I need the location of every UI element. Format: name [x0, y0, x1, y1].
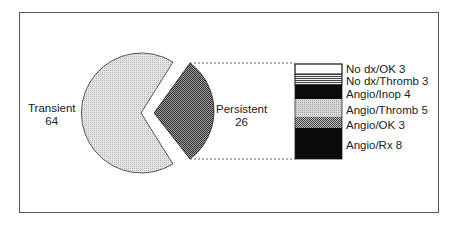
persistent-value: 26	[216, 116, 267, 129]
persistent-label: Persistent 26	[216, 103, 267, 129]
segment-label-angio-rx: Angio/Rx 8	[346, 139, 402, 152]
transient-label: Transient 64	[28, 102, 76, 128]
transient-name: Transient	[28, 102, 76, 115]
segment-label-angio-ok: Angio/OK 3	[346, 119, 405, 132]
stacked-bar	[295, 64, 342, 159]
transient-value: 64	[28, 115, 76, 128]
segment-label-angio-thromb: Angio/Thromb 5	[346, 104, 428, 117]
segment-label-angio-inop: Angio/Inop 4	[346, 88, 411, 101]
persistent-name: Persistent	[216, 103, 267, 116]
segment-label-no-dx-thromb: No dx/Thromb 3	[346, 75, 428, 88]
